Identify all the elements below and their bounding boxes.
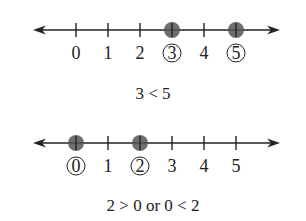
tick-label: 2 bbox=[136, 43, 145, 63]
tick-label: 1 bbox=[104, 156, 113, 176]
tick-label: 0 bbox=[72, 43, 81, 63]
tick-label: 1 bbox=[104, 43, 113, 63]
caption-2: 2 > 0 or 0 < 2 bbox=[0, 196, 306, 216]
tick-label: 3 bbox=[168, 156, 177, 176]
tick-label: 4 bbox=[200, 43, 209, 63]
tick-label: 5 bbox=[232, 156, 241, 176]
tick-label: 2 bbox=[136, 156, 145, 176]
caption-1: 3 < 5 bbox=[0, 84, 306, 104]
tick-label: 4 bbox=[200, 156, 209, 176]
tick-label: 0 bbox=[72, 156, 81, 176]
tick-label: 5 bbox=[232, 43, 241, 63]
tick-label: 3 bbox=[168, 43, 177, 63]
number-lines: 012345 012345 bbox=[0, 0, 306, 221]
number-line-1: 012345 bbox=[33, 22, 280, 63]
number-line-2: 012345 bbox=[33, 135, 280, 176]
